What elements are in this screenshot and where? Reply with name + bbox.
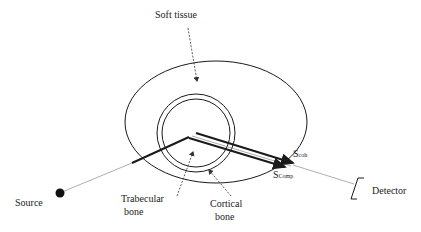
detected-beam-thin (293, 165, 354, 184)
source-label: Source (15, 197, 43, 208)
cortical-bone-label-line1: Cortical (210, 198, 242, 209)
trabecular-bone-label-line2: bone (124, 206, 144, 217)
soft-tissue-label: Soft tissue (155, 9, 198, 20)
trabecular-bone-label-line1: Trabecular (121, 193, 165, 204)
compton-scatter-arrow (189, 138, 285, 167)
source-dot-icon (56, 189, 65, 198)
coherent-scatter-arrow (196, 133, 293, 163)
cortical-bone-label-line2: bone (215, 211, 235, 222)
s-comp-label: SComp (273, 169, 293, 180)
trabecular-leader-arrow (177, 152, 193, 196)
scatter-channel-line (192, 136, 291, 166)
soft-tissue-leader-arrow (188, 28, 197, 81)
detector-label: Detector (372, 185, 407, 196)
scatter-geometry-diagram: Soft tissue Trabecular bone Cortical bon… (0, 0, 421, 232)
detector-bracket-icon (351, 178, 364, 199)
s-coh-label: Scoh (293, 148, 307, 159)
incident-beam-thick (132, 137, 189, 163)
incident-beam-thin (62, 163, 132, 192)
